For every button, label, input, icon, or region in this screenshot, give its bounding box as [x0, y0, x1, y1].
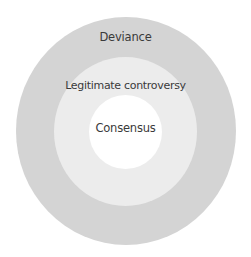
deviance-label: Deviance — [0, 30, 251, 44]
legitimate-controversy-label: Legitimate controversy — [0, 79, 251, 92]
consensus-label: Consensus — [0, 121, 251, 135]
concentric-spheres-diagram: Deviance Legitimate controversy Consensu… — [0, 0, 251, 257]
